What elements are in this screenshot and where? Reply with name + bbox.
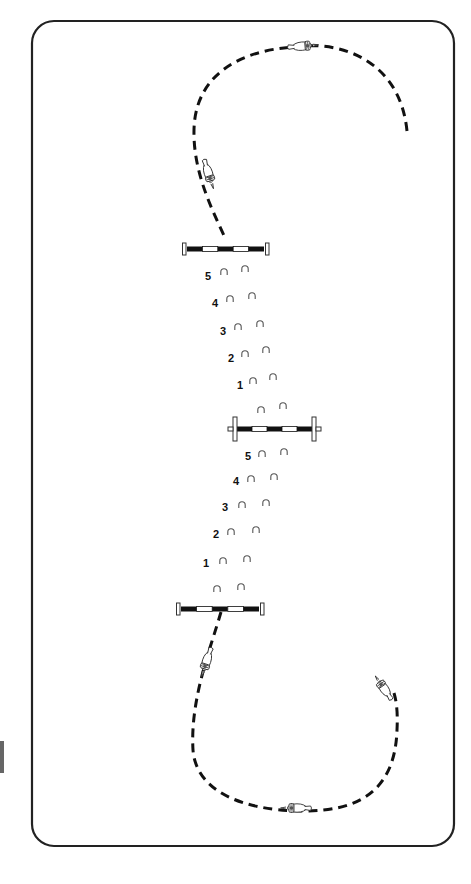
hoofprint-icon: [263, 347, 269, 353]
arena-boundary: [32, 21, 454, 846]
hoofprint-icon: [271, 474, 277, 480]
hoofprint-icon: [214, 586, 220, 592]
pole-segment: [218, 247, 233, 252]
pole-segment: [297, 427, 312, 432]
rider-lower-left-icon: [197, 646, 215, 678]
hoofprint-icon: [238, 584, 244, 590]
pole-segment: [237, 427, 252, 432]
hoofprint-icon: [242, 351, 248, 357]
jump-stand: [266, 243, 270, 255]
pole-segment: [202, 247, 217, 252]
pole-segment: [228, 607, 244, 612]
stride: 4: [233, 474, 277, 487]
pole-segment: [252, 427, 267, 432]
pole-segment: [187, 247, 202, 252]
jump-stand: [233, 417, 237, 441]
hoofprint-icon: [281, 449, 287, 455]
pole-segment: [267, 427, 282, 432]
hoofprint-icon: [270, 374, 276, 380]
hoofprint-icon: [235, 324, 241, 330]
hoofprint-icon: [227, 296, 233, 302]
pole-2: [228, 417, 321, 441]
jump-stand: [312, 417, 316, 441]
stride: 1: [237, 374, 276, 391]
course-diagram: 5432154321: [0, 0, 471, 884]
approach-top-track: [194, 46, 407, 240]
stride: 3: [222, 500, 269, 513]
stride: 4: [212, 293, 255, 309]
hoofprint-icon: [248, 476, 254, 482]
stride-number: 2: [213, 528, 219, 540]
stride-number: 2: [228, 352, 234, 364]
between-pole-1-and-2: 54321: [205, 266, 286, 413]
cup-cap: [228, 427, 233, 431]
between-pole-2-and-3: 54321: [203, 449, 287, 592]
hoofprint-icon: [280, 403, 286, 409]
hoofprint-icon: [263, 500, 269, 506]
stride-number: 5: [245, 450, 251, 462]
stride: 5: [205, 266, 248, 282]
hoofprint-icon: [259, 451, 265, 457]
rider-lower-right-icon: [372, 673, 396, 702]
hoofprint-icon: [220, 558, 226, 564]
stride-number: 4: [233, 475, 240, 487]
pole-segment: [243, 607, 259, 612]
pole-segment: [249, 247, 264, 252]
stride: 3: [220, 321, 263, 337]
hoofprint-icon: [257, 321, 263, 327]
jump-stand: [183, 243, 187, 255]
stride: 2: [213, 527, 259, 540]
hoofprint-icon: [253, 527, 259, 533]
stride: 1: [203, 556, 250, 569]
cup-cap: [316, 427, 321, 431]
hoofprint-icon: [242, 266, 248, 272]
pole-segment: [197, 607, 213, 612]
stride-number: 5: [205, 270, 211, 282]
hoofprint-icon: [258, 407, 264, 413]
jump-stand: [261, 603, 265, 615]
hoofprint-icon: [221, 269, 227, 275]
pole-1: [183, 243, 270, 255]
stride-number: 3: [220, 325, 226, 337]
hoofprint-icon: [249, 293, 255, 299]
stride: [214, 584, 244, 592]
jump-stand: [177, 603, 181, 615]
stride: [258, 403, 286, 413]
exit-bottom-track: [193, 612, 398, 811]
stride: 5: [245, 449, 287, 462]
pole-segment: [282, 427, 297, 432]
hoofprint-icon: [244, 556, 250, 562]
stride-number: 4: [212, 297, 219, 309]
pole-segment: [181, 607, 197, 612]
hoofprint-icon: [228, 529, 234, 535]
rider-top-icon: [287, 40, 319, 52]
hoofprint-icon: [239, 502, 245, 508]
hoofprint-icon: [250, 378, 256, 384]
stride-number: 3: [222, 501, 228, 513]
stride: 2: [228, 347, 269, 364]
pole-segment: [212, 607, 228, 612]
stride-number: 1: [237, 379, 243, 391]
pole-segment: [233, 247, 248, 252]
stride-number: 1: [203, 557, 209, 569]
